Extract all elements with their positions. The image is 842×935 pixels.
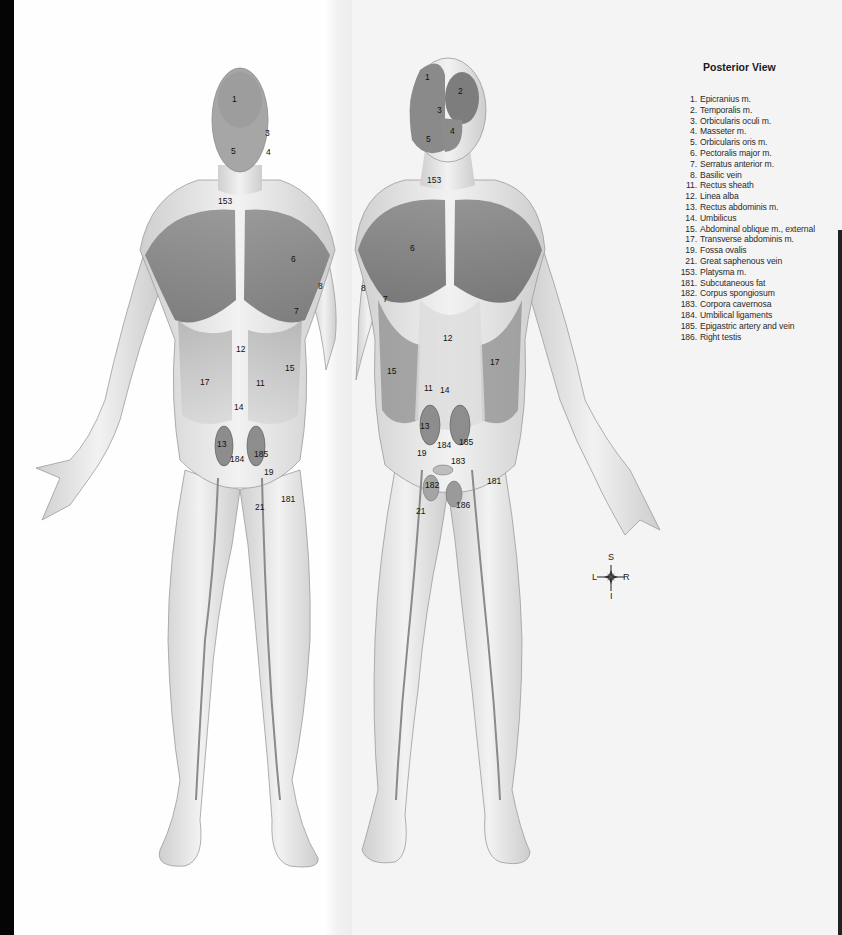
legend-item: 1.Epicranius m. <box>676 94 836 105</box>
label: 5 <box>231 146 236 156</box>
label: 2 <box>458 86 463 96</box>
label: 6 <box>410 243 415 253</box>
label: 17 <box>490 357 500 367</box>
label: 181 <box>281 494 295 504</box>
label: 185 <box>254 449 268 459</box>
label: 7 <box>383 294 388 304</box>
label: 1 <box>232 94 237 104</box>
legend-item: 14.Umbilicus <box>676 213 836 224</box>
legend-item: 185.Epigastric artery and vein <box>676 321 836 332</box>
legend-item: 153.Platysma m. <box>676 267 836 278</box>
right-arm <box>528 240 660 535</box>
label: 183 <box>451 456 465 466</box>
label: 13 <box>217 439 227 449</box>
compass-right-label: R <box>623 572 630 582</box>
label: 184 <box>230 454 244 464</box>
corpora-cavernosa <box>433 465 453 475</box>
label: 153 <box>218 196 232 206</box>
label: 181 <box>487 476 501 486</box>
label: 3 <box>437 105 442 115</box>
temporalis-muscle <box>445 72 479 124</box>
legend-item: 184.Umbilical ligaments <box>676 310 836 321</box>
label: 21 <box>255 502 265 512</box>
label: 153 <box>427 175 441 185</box>
label: 8 <box>361 283 366 293</box>
legend-list: 1.Epicranius m. 2.Temporalis m. 3.Orbicu… <box>676 94 836 342</box>
label: 3 <box>265 128 270 138</box>
legend-item: 3.Orbicularis oculi m. <box>676 116 836 127</box>
legend-item: 7.Serratus anterior m. <box>676 159 836 170</box>
legend-item: 181.Subcutaneous fat <box>676 278 836 289</box>
label: 15 <box>387 366 397 376</box>
left-arm <box>36 240 160 520</box>
label: 19 <box>417 448 427 458</box>
label: 14 <box>440 385 450 395</box>
label: 19 <box>264 467 274 477</box>
label: 185 <box>459 437 473 447</box>
legend-item: 11.Rectus sheath <box>676 180 836 191</box>
label: 17 <box>200 377 210 387</box>
label: 182 <box>425 480 439 490</box>
right-leg <box>240 470 318 867</box>
label: 184 <box>437 440 451 450</box>
legend-item: 182.Corpus spongiosum <box>676 288 836 299</box>
right-leg <box>448 470 530 864</box>
label: 13 <box>420 421 430 431</box>
legend-item: 8.Basilic vein <box>676 170 836 181</box>
label: 14 <box>234 402 244 412</box>
label: 11 <box>256 378 265 388</box>
label: 6 <box>291 254 296 264</box>
legend-item: 13.Rectus abdominis m. <box>676 202 836 213</box>
compass-left-label: L <box>592 572 597 582</box>
legend-item: 183.Corpora cavernosa <box>676 299 836 310</box>
figure-right <box>355 58 660 864</box>
legend-title: Posterior View <box>703 61 776 73</box>
legend-item: 12.Linea alba <box>676 191 836 202</box>
label: 11 <box>424 383 433 393</box>
label: 4 <box>450 126 455 136</box>
compass-inferior-label: I <box>610 591 613 601</box>
label: 186 <box>456 500 470 510</box>
figure-left <box>36 68 336 867</box>
legend-item: 19.Fossa ovalis <box>676 245 836 256</box>
legend-item: 17.Transverse abdominis m. <box>676 234 836 245</box>
label: 21 <box>416 506 426 516</box>
legend-item: 2.Temporalis m. <box>676 105 836 116</box>
left-leg <box>159 470 240 866</box>
rectus-abdominis-right <box>247 426 265 466</box>
legend-item: 21.Great saphenous vein <box>676 256 836 267</box>
label: 1 <box>425 72 430 82</box>
label: 5 <box>426 134 431 144</box>
label: 8 <box>318 281 323 291</box>
legend-item: 15.Abdominal oblique m., external <box>676 224 836 235</box>
label: 15 <box>285 363 295 373</box>
label: 12 <box>236 344 246 354</box>
label: 4 <box>266 147 271 157</box>
orientation-compass: S L R I <box>563 556 633 606</box>
legend-item: 6.Pectoralis major m. <box>676 148 836 159</box>
compass-superior-label: S <box>608 552 614 562</box>
legend-item: 186.Right testis <box>676 332 836 343</box>
label: 12 <box>443 333 453 343</box>
legend-item: 5.Orbicularis oris m. <box>676 137 836 148</box>
legend-item: 4.Masseter m. <box>676 126 836 137</box>
label: 7 <box>294 306 299 316</box>
